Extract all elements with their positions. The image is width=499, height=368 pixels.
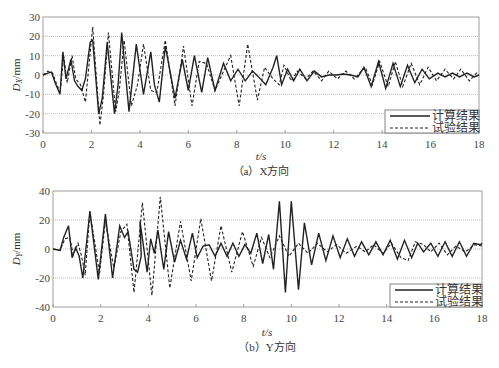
y-tick-label: -10 <box>25 88 40 100</box>
chart-a-y-axis-label: DX/mm <box>10 58 24 92</box>
chart-a-series-calculated <box>43 33 479 114</box>
y-tick-label: -30 <box>25 127 40 139</box>
chart-a: 3020100-10-20-30 024681012141618 DX/mm t… <box>10 11 485 177</box>
x-tick-label: 2 <box>98 312 104 324</box>
y-tick-label: 20 <box>29 30 41 42</box>
x-tick-label: 4 <box>137 138 143 150</box>
chart-a-x-axis-label: t/s <box>256 150 266 162</box>
x-tick-label: 10 <box>280 138 292 150</box>
chart-b-caption: （b）Y方向 <box>238 340 295 353</box>
x-tick-label: 14 <box>377 138 389 150</box>
chart-b: 40200-20-40 024681012141618 DY/mm t/s （b… <box>10 185 488 353</box>
y-tick-label: -20 <box>35 272 50 284</box>
chart-a-caption: （a）X方向 <box>233 164 290 177</box>
figure: 3020100-10-20-30 024681012141618 DX/mm t… <box>0 0 499 368</box>
y-tick-label: 30 <box>29 11 41 23</box>
chart-b-x-axis-label: t/s <box>262 326 272 338</box>
x-tick-label: 6 <box>186 138 192 150</box>
y-tick-label: 10 <box>29 50 41 62</box>
chart-b-legend: 计算结果 试验结果 <box>390 282 483 309</box>
x-tick-label: 18 <box>477 312 489 324</box>
y-tick-label: 40 <box>39 185 51 197</box>
x-tick-label: 0 <box>40 138 46 150</box>
x-tick-label: 6 <box>193 312 199 324</box>
y-tick-label: 0 <box>45 243 51 255</box>
chart-b-series-calculated <box>53 201 482 292</box>
chart-a-legend: 计算结果 试验结果 <box>385 108 480 135</box>
x-tick-label: 12 <box>328 138 339 150</box>
x-tick-label: 10 <box>286 312 298 324</box>
chart-b-y-axis-label: DY/mm <box>10 232 24 266</box>
chart-a-y-ticks: 3020100-10-20-30 <box>25 11 40 139</box>
y-tick-label: 20 <box>39 214 51 226</box>
x-tick-label: 18 <box>474 138 486 150</box>
x-tick-label: 4 <box>146 312 152 324</box>
x-tick-label: 16 <box>425 138 437 150</box>
legend-label-test: 试验结果 <box>432 120 480 135</box>
x-tick-label: 16 <box>429 312 441 324</box>
x-tick-label: 8 <box>241 312 247 324</box>
chart-b-y-ticks: 40200-20-40 <box>35 185 50 313</box>
y-tick-label: -40 <box>35 301 50 313</box>
x-tick-label: 14 <box>381 312 393 324</box>
y-tick-label: 0 <box>35 69 41 81</box>
x-tick-label: 2 <box>89 138 95 150</box>
legend-label-test: 试验结果 <box>435 294 483 309</box>
y-tick-label: -20 <box>25 108 40 120</box>
x-tick-label: 8 <box>234 138 240 150</box>
x-tick-label: 0 <box>50 312 56 324</box>
x-tick-label: 12 <box>334 312 345 324</box>
chart-b-gridlines <box>53 220 482 278</box>
